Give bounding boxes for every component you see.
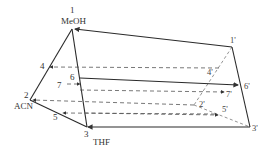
back-triangle xyxy=(194,47,250,127)
label-acn: ACN xyxy=(14,101,34,111)
line-7-7p xyxy=(80,90,224,92)
label-5: 5 xyxy=(53,112,58,122)
edge-1-2 xyxy=(30,29,72,100)
label-1p: 1' xyxy=(230,35,236,45)
label-5p: 5' xyxy=(222,104,228,114)
label-2p: 2' xyxy=(199,99,205,109)
label-7p: 7' xyxy=(226,89,232,99)
lateral-edges xyxy=(33,29,250,127)
line-6-6p xyxy=(80,78,238,85)
label-thf: THF xyxy=(93,137,110,147)
label-1: 1 xyxy=(70,5,75,15)
label-3: 3 xyxy=(84,129,89,139)
label-3p: 3' xyxy=(252,123,258,133)
edge-1p-1 xyxy=(75,29,232,47)
label-meoh: MeOH xyxy=(61,16,86,26)
label-4: 4 xyxy=(40,61,45,71)
label-2: 2 xyxy=(24,90,29,100)
line-4p-4 xyxy=(50,67,219,68)
prism-diagram: 1 MeOH 2 ACN 3 THF 4 6 7 5 1' 4' 6' 7' 2… xyxy=(0,0,270,152)
label-4p: 4' xyxy=(207,67,213,77)
diagram-canvas: 1 MeOH 2 ACN 3 THF 4 6 7 5 1' 4' 6' 7' 2… xyxy=(0,0,270,152)
label-6: 6 xyxy=(70,72,75,82)
edge-2p-2 xyxy=(33,100,194,105)
label-6p: 6' xyxy=(244,81,250,91)
labels: 1 MeOH 2 ACN 3 THF 4 6 7 5 1' 4' 6' 7' 2… xyxy=(14,5,258,147)
label-7: 7 xyxy=(57,80,62,90)
front-triangle xyxy=(30,29,87,127)
